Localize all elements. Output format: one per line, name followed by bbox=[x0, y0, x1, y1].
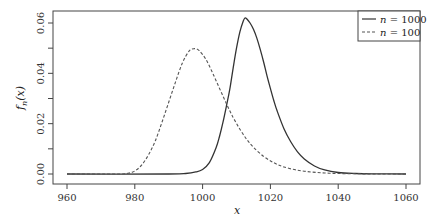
y-axis: 0.000.020.040.06 bbox=[35, 12, 53, 185]
x-axis: 9609801000102010401060 bbox=[57, 184, 418, 203]
series-n100-line bbox=[67, 49, 406, 174]
x-tick-label: 1020 bbox=[258, 192, 283, 203]
x-axis-title: x bbox=[234, 204, 241, 217]
series-n1000-line bbox=[67, 18, 406, 174]
y-tick-label: 0.06 bbox=[35, 12, 46, 34]
series-layer bbox=[67, 18, 406, 174]
y-tick-label: 0.00 bbox=[35, 163, 46, 185]
y-tick-label-group: 0.02 bbox=[35, 113, 46, 135]
y-tick-label-group: 0.04 bbox=[35, 62, 46, 84]
density-chart: 9609801000102010401060 0.000.020.040.06 … bbox=[0, 0, 431, 222]
y-tick-label-group: 0.00 bbox=[35, 163, 46, 185]
x-tick-label: 1040 bbox=[325, 192, 350, 203]
x-tick-label: 960 bbox=[57, 192, 76, 203]
y-axis-title: fn(x) bbox=[14, 86, 29, 111]
y-axis-title-group: fn(x) bbox=[14, 86, 29, 111]
y-tick-label: 0.04 bbox=[35, 62, 46, 84]
legend-label-n100: n = 100 bbox=[380, 27, 420, 38]
x-tick-label: 1000 bbox=[190, 192, 215, 203]
x-tick-label: 1060 bbox=[393, 192, 418, 203]
x-tick-label: 980 bbox=[125, 192, 144, 203]
legend-label-n1000: n = 1000 bbox=[380, 14, 427, 25]
y-tick-label: 0.02 bbox=[35, 113, 46, 135]
legend: n = 1000 n = 100 bbox=[358, 11, 427, 41]
y-tick-label-group: 0.06 bbox=[35, 12, 46, 34]
